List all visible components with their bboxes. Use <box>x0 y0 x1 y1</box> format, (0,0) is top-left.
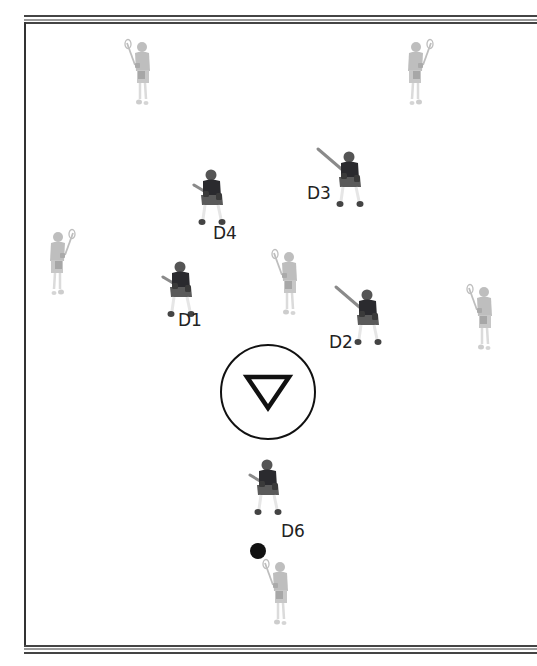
defender-label-d6: D6 <box>281 523 305 540</box>
attacker-player <box>125 39 155 111</box>
defender-figure-icon <box>250 459 286 521</box>
defender-label-d3: D3 <box>307 185 331 202</box>
lacrosse-ball <box>250 543 266 559</box>
goal-triangle-icon <box>220 344 316 440</box>
attacker-figure-icon <box>45 229 75 301</box>
defender-player-d4 <box>194 169 230 231</box>
defender-player-d6 <box>250 459 286 521</box>
defender-figure-icon <box>194 169 230 231</box>
goal-crease <box>220 344 316 440</box>
attacker-player <box>272 249 302 321</box>
attacker-figure-icon <box>263 559 293 631</box>
attacker-player <box>263 559 293 631</box>
defender-label-d4: D4 <box>213 225 237 242</box>
defender-figure-icon <box>332 151 368 213</box>
attacker-figure-icon <box>403 39 433 111</box>
attacker-player <box>403 39 433 111</box>
defender-label-d2: D2 <box>329 334 353 351</box>
bottom-border-line-inner <box>24 645 537 647</box>
bottom-border-line-light <box>24 648 537 650</box>
top-border-line-inner <box>24 22 537 24</box>
left-border-line <box>24 22 26 647</box>
attacker-figure-icon <box>467 284 497 356</box>
defender-player-d2 <box>350 289 386 351</box>
defender-figure-icon <box>350 289 386 351</box>
bottom-border-line-outer <box>24 652 537 654</box>
lacrosse-field-diagram: D1 D2 D3 <box>0 0 537 666</box>
attacker-player <box>467 284 497 356</box>
attacker-player <box>45 229 75 301</box>
attacker-figure-icon <box>272 249 302 321</box>
defender-player-d3 <box>332 151 368 213</box>
top-border-line-light <box>24 19 537 21</box>
attacker-figure-icon <box>125 39 155 111</box>
top-border-line-outer <box>24 15 537 17</box>
defender-label-d1: D1 <box>178 312 202 329</box>
